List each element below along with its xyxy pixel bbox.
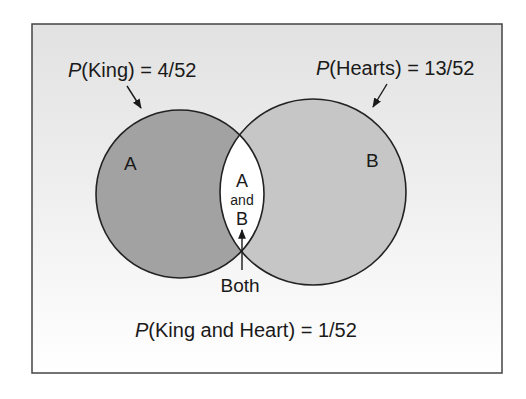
intersection-label-and: and [230, 192, 253, 208]
p-king-label: P(King) = 4/52 [68, 59, 196, 81]
venn-diagram: P(King) = 4/52 P(Hearts) = 13/52 A B A a… [0, 0, 526, 399]
intersection-label-a: A [236, 171, 248, 191]
both-label: Both [220, 275, 259, 296]
intersection-label-b: B [236, 209, 248, 229]
circle-b-label: B [366, 150, 379, 171]
p-hearts-label: P(Hearts) = 13/52 [316, 57, 474, 79]
joint-probability-label: P(King and Heart) = 1/52 [135, 319, 357, 341]
circle-a-label: A [124, 153, 137, 174]
